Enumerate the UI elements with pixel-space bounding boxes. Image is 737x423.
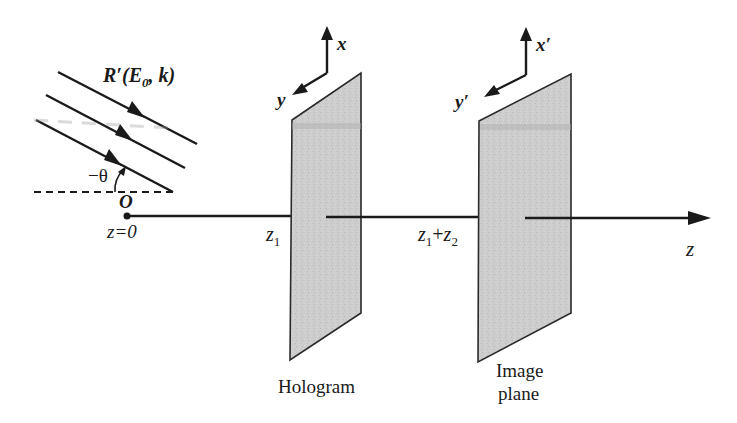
z-axis-label: z <box>685 237 694 261</box>
hologram-x-label: x <box>336 33 347 54</box>
x-axis-arrow-icon <box>321 26 333 40</box>
hologram-caption: Hologram <box>278 376 355 397</box>
origin-label: O <box>119 191 133 212</box>
image-plane-x-label: x′ <box>535 34 551 55</box>
image-plane-caption-line1: Image <box>496 360 543 381</box>
incident-wave-rays <box>34 72 197 192</box>
image-plane-caption-line2: plane <box>498 383 539 404</box>
hologram-y-label: y <box>275 89 286 110</box>
origin-z-label: z=0 <box>106 221 137 242</box>
y-prime-axis-arrow-icon <box>484 85 500 97</box>
wave-label: R′(E0, k) <box>102 64 175 90</box>
ray-arrow-icon <box>127 101 145 118</box>
ray-arrow-icon <box>104 149 122 166</box>
z-axis-arrow-icon <box>688 211 711 225</box>
hologram-diagram: R′(E0, k) −θ O z=0 x y x′ y′ z1 z1+z2 z <box>0 0 737 423</box>
image-plane-y-label: y′ <box>453 91 469 112</box>
image-plane-position-label: z1+z2 <box>417 223 458 249</box>
ray-2 <box>46 95 185 168</box>
hologram-position-label: z1 <box>265 223 280 249</box>
x-prime-axis-arrow-icon <box>520 27 532 41</box>
angle-label: −θ <box>88 165 108 186</box>
